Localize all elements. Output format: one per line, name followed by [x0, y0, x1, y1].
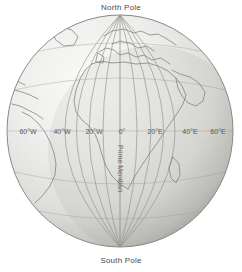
meridian-label-60w: 60°W: [19, 128, 37, 135]
meridian-label-20e: 20°E: [147, 128, 163, 135]
meridian-label-40e: 40°E: [182, 128, 198, 135]
meridian-label-60e: 60°E: [210, 128, 226, 135]
prime-meridian-label: Prime Meridian: [117, 145, 124, 192]
globe-figure: North Pole: [0, 0, 242, 272]
meridian-label-20w: 20°W: [85, 128, 103, 135]
globe-illustration: 60°W 40°W 20°W 0° 20°E 40°E 60°E Prime M…: [0, 0, 242, 272]
meridian-label-40w: 40°W: [53, 128, 71, 135]
meridian-label-0: 0°: [119, 128, 126, 135]
south-pole-label: South Pole: [0, 256, 242, 265]
